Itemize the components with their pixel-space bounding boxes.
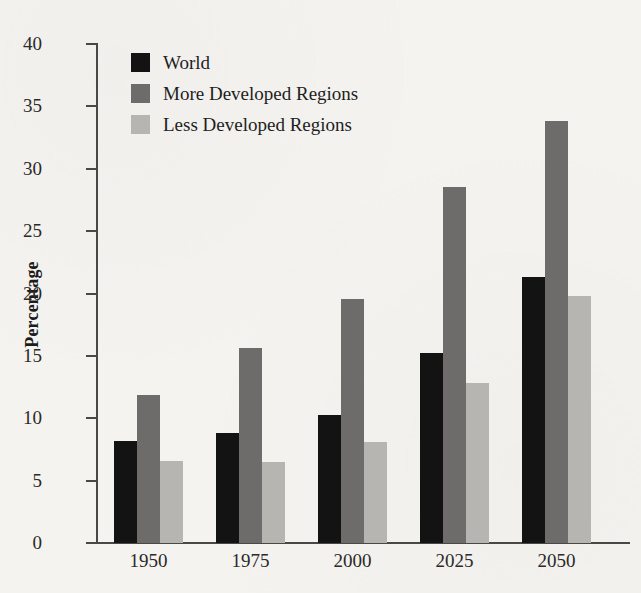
x-tick-label: 1950: [104, 551, 194, 570]
bar-chart: Percentage 0510152025303540 195019752000…: [0, 0, 641, 593]
y-tick-label: 5: [4, 471, 42, 490]
legend-label: More Developed Regions: [163, 84, 358, 103]
y-tick-label: 25: [4, 221, 42, 240]
bar: [114, 441, 137, 543]
bar: [216, 433, 239, 543]
bar: [239, 348, 262, 543]
y-tick-mark: [86, 355, 97, 357]
y-tick-mark: [86, 230, 97, 232]
bar: [160, 461, 183, 543]
y-tick-label: 35: [4, 96, 42, 115]
y-tick-label: 30: [4, 159, 42, 178]
y-tick-mark: [86, 542, 97, 544]
bar: [364, 442, 387, 543]
x-tick-label: 1975: [206, 551, 296, 570]
bar: [568, 296, 591, 543]
y-tick-label: 20: [4, 284, 42, 303]
bar: [443, 187, 466, 543]
y-tick-label: 40: [4, 34, 42, 53]
legend-swatch-icon: [131, 115, 150, 134]
bar: [522, 277, 545, 543]
legend-swatch-icon: [131, 84, 150, 103]
legend-label: Less Developed Regions: [163, 115, 352, 134]
bar: [137, 395, 160, 543]
y-tick-mark: [86, 43, 97, 45]
y-tick-mark: [86, 105, 97, 107]
y-tick-label: 0: [4, 533, 42, 552]
y-tick-label: 10: [4, 408, 42, 427]
legend-item: More Developed Regions: [131, 78, 358, 109]
y-tick-mark: [86, 168, 97, 170]
bar: [318, 415, 341, 543]
y-tick-mark: [86, 417, 97, 419]
x-tick-label: 2025: [410, 551, 500, 570]
x-tick-label: 2000: [308, 551, 398, 570]
legend-label: World: [163, 53, 210, 72]
bar: [341, 299, 364, 544]
x-tick-label: 2050: [512, 551, 602, 570]
y-tick-mark: [86, 480, 97, 482]
legend-item: World: [131, 47, 358, 78]
y-tick-mark: [86, 293, 97, 295]
bar: [545, 121, 568, 543]
bar: [466, 383, 489, 543]
legend-item: Less Developed Regions: [131, 109, 358, 140]
chart-legend: WorldMore Developed RegionsLess Develope…: [131, 47, 358, 140]
legend-swatch-icon: [131, 53, 150, 72]
bar: [262, 462, 285, 543]
bar: [420, 353, 443, 543]
y-tick-label: 15: [4, 346, 42, 365]
